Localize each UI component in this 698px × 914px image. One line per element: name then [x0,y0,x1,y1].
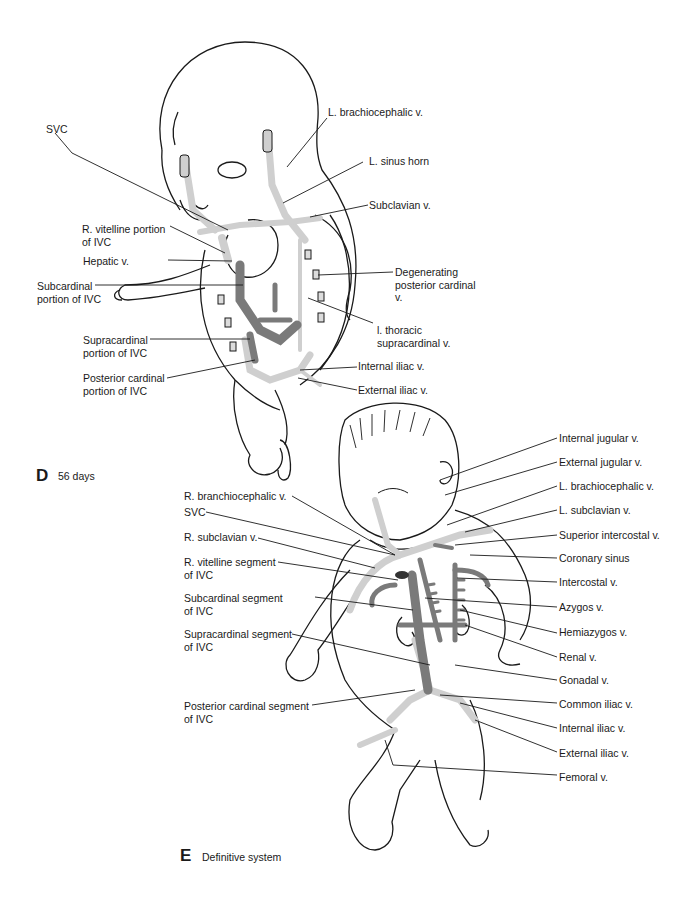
label-e-azygos-v: Azygos v. [559,601,604,614]
label-e-l-brachiocephalic-v: L. brachiocephalic v. [559,480,654,493]
label-e-hemiazygos-v: Hemiazygos v. [559,626,627,639]
label-e-coronary-sinus: Coronary sinus [559,552,630,565]
label-line-1: R. vitelline portion [82,223,165,236]
label-d-internal-iliac-v: Internal iliac v. [358,360,424,373]
label-d-l-sinus-horn: L. sinus horn [369,155,429,168]
label-d-r-vitelline-portion-ivc: R. vitelline portion of IVC [82,223,165,248]
label-e-svc: SVC [184,506,206,519]
label-e-external-jugular-v: External jugular v. [559,456,642,469]
label-line-2: of IVC [184,605,283,618]
label-line-1: Degenerating [395,266,476,279]
label-e-external-iliac-v: External iliac v. [559,747,629,760]
label-line-1: l. thoracic [377,324,450,337]
label-line-2: posterior cardinal [395,279,476,292]
label-line-2: supracardinal v. [377,337,450,350]
label-line-2: of IVC [184,713,309,726]
coronary-sinus-shape [395,571,409,579]
label-d-l-thoracic-supracardinal-v: l. thoracic supracardinal v. [377,324,450,349]
label-e-gonadal-v: Gonadal v. [559,674,609,687]
label-e-superior-intercostal-v: Superior intercostal v. [559,529,660,542]
label-e-common-iliac-v: Common iliac v. [559,698,633,711]
label-d-svc: SVC [46,123,68,136]
label-line-2: of IVC [82,236,165,249]
label-d-external-iliac-v: External iliac v. [358,384,428,397]
label-line-2: portion of IVC [37,293,101,306]
label-e-r-vitelline-segment-ivc: R. vitelline segment of IVC [184,556,276,581]
label-e-internal-iliac-v: Internal iliac v. [559,722,625,735]
label-line-2: of IVC [184,641,292,654]
panel-d-caption: 56 days [58,470,95,482]
label-line-3: v. [395,291,476,304]
label-d-subclavian-v: Subclavian v. [369,199,431,212]
label-d-posterior-cardinal-portion-ivc: Posterior cardinal portion of IVC [83,372,165,397]
label-line-2: portion of IVC [83,385,165,398]
label-line-1: Posterior cardinal [83,372,165,385]
panel-e-caption: Definitive system [202,851,281,863]
panel-d-letter: D [36,466,48,486]
panel-d-vessel-stumps [180,130,272,177]
label-e-l-subclavian-v: L. subclavian v. [559,504,631,517]
label-e-subcardinal-segment-ivc: Subcardinal segment of IVC [184,592,283,617]
label-line-1: Subcardinal segment [184,592,283,605]
label-d-subcardinal-portion-ivc: Subcardinal portion of IVC [37,280,101,305]
label-line-1: R. vitelline segment [184,556,276,569]
label-line-2: portion of IVC [83,347,148,360]
label-e-intercostal-v: Intercostal v. [559,576,618,589]
label-line-1: Supracardinal segment [184,628,292,641]
label-e-femoral-v: Femoral v. [559,771,608,784]
label-d-hepatic-v: Hepatic v. [83,255,129,268]
label-e-internal-jugular-v: Internal jugular v. [559,432,639,445]
label-d-degenerating-posterior-cardinal-v: Degenerating posterior cardinal v. [395,266,476,304]
panel-e-letter: E [180,846,191,866]
label-d-supracardinal-portion-ivc: Supracardinal portion of IVC [83,334,148,359]
label-line-1: Supracardinal [83,334,148,347]
label-e-renal-v: Renal v. [559,651,597,664]
label-line-1: Posterior cardinal segment [184,700,309,713]
label-e-posterior-cardinal-segment-ivc: Posterior cardinal segment of IVC [184,700,309,725]
label-e-r-brachiocephalic-v: R. branchiocephalic v. [184,490,287,503]
panel-d-illustration [115,42,356,480]
label-line-1: Subcardinal [37,280,101,293]
label-e-r-subclavian-v: R. subclavian v. [184,531,257,544]
panel-e-vessels-dark [372,545,488,690]
label-line-2: of IVC [184,569,276,582]
label-e-supracardinal-segment-ivc: Supracardinal segment of IVC [184,628,292,653]
label-d-l-brachiocephalic-v: L. brachiocephalic v. [328,106,423,119]
